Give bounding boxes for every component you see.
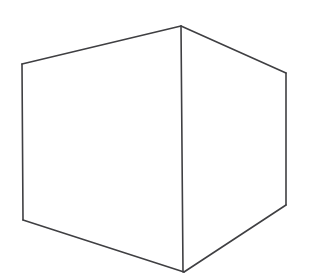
cube-left-vertical-edge bbox=[22, 64, 23, 220]
cube-drawing bbox=[0, 0, 318, 279]
drawing-canvas bbox=[0, 0, 318, 279]
